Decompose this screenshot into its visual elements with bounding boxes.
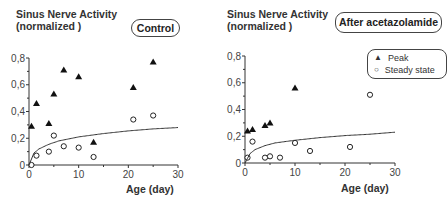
svg-text:0,4: 0,4 bbox=[227, 104, 241, 115]
plot-area: 010203000,20,40,60,8 bbox=[223, 0, 446, 205]
svg-text:30: 30 bbox=[172, 169, 184, 180]
peak-marker bbox=[249, 126, 256, 132]
svg-text:0: 0 bbox=[26, 169, 32, 180]
svg-text:0,8: 0,8 bbox=[227, 51, 241, 62]
steady-state-marker bbox=[34, 153, 39, 158]
svg-text:0: 0 bbox=[242, 167, 248, 178]
steady-state-marker bbox=[151, 113, 156, 118]
legend-label: Peak bbox=[388, 52, 409, 64]
svg-text:20: 20 bbox=[339, 167, 351, 178]
peak-marker bbox=[33, 100, 40, 106]
steady-state-marker bbox=[51, 133, 56, 138]
svg-text:0,2: 0,2 bbox=[227, 131, 241, 142]
svg-text:10: 10 bbox=[289, 167, 301, 178]
steady-state-marker bbox=[76, 145, 81, 150]
legend-item-steady: ○ Steady state bbox=[374, 64, 440, 76]
svg-text:0,6: 0,6 bbox=[11, 79, 25, 90]
steady-state-marker bbox=[46, 149, 51, 154]
steady-state-marker bbox=[277, 155, 282, 160]
steady-state-marker bbox=[267, 154, 272, 159]
steady-state-marker bbox=[131, 117, 136, 122]
panel-acetazolamide: Sinus Nerve Activity (normalized ) After… bbox=[223, 0, 446, 205]
filled-triangle-icon: ▲ bbox=[374, 52, 382, 64]
steady-state-marker bbox=[262, 155, 267, 160]
open-circle-icon: ○ bbox=[374, 64, 379, 76]
steady-state-marker bbox=[61, 144, 66, 149]
legend-label: Steady state bbox=[385, 64, 435, 76]
svg-text:10: 10 bbox=[73, 169, 85, 180]
peak-marker bbox=[60, 67, 67, 73]
svg-text:30: 30 bbox=[389, 167, 401, 178]
panel-control: Sinus Nerve Activity (normalized ) Contr… bbox=[0, 0, 223, 205]
legend-item-peak: ▲ Peak bbox=[374, 52, 440, 64]
x-axis-label: Age (day) bbox=[126, 183, 174, 195]
plot-area: 010203000,20,40,60,8 bbox=[0, 0, 223, 205]
steady-state-marker bbox=[347, 144, 352, 149]
peak-marker bbox=[45, 120, 52, 126]
svg-text:0: 0 bbox=[19, 160, 25, 171]
steady-state-marker bbox=[292, 140, 297, 145]
svg-text:0,2: 0,2 bbox=[11, 133, 25, 144]
steady-state-marker bbox=[307, 148, 312, 153]
peak-marker bbox=[292, 85, 299, 91]
svg-text:20: 20 bbox=[123, 169, 135, 180]
x-axis-label: Age (day) bbox=[341, 182, 389, 194]
steady-state-marker bbox=[367, 92, 372, 97]
steady-state-marker bbox=[250, 139, 255, 144]
peak-marker bbox=[150, 59, 157, 65]
peak-marker bbox=[75, 73, 82, 79]
svg-text:0,8: 0,8 bbox=[11, 53, 25, 64]
svg-text:0,4: 0,4 bbox=[11, 106, 25, 117]
peak-marker bbox=[267, 119, 274, 125]
svg-text:0: 0 bbox=[235, 158, 241, 169]
svg-text:0,6: 0,6 bbox=[227, 77, 241, 88]
peak-marker bbox=[130, 84, 137, 90]
steady-state-marker bbox=[91, 154, 96, 159]
legend: ▲ Peak ○ Steady state bbox=[367, 49, 447, 79]
peak-marker bbox=[90, 139, 97, 145]
peak-marker bbox=[50, 91, 57, 97]
